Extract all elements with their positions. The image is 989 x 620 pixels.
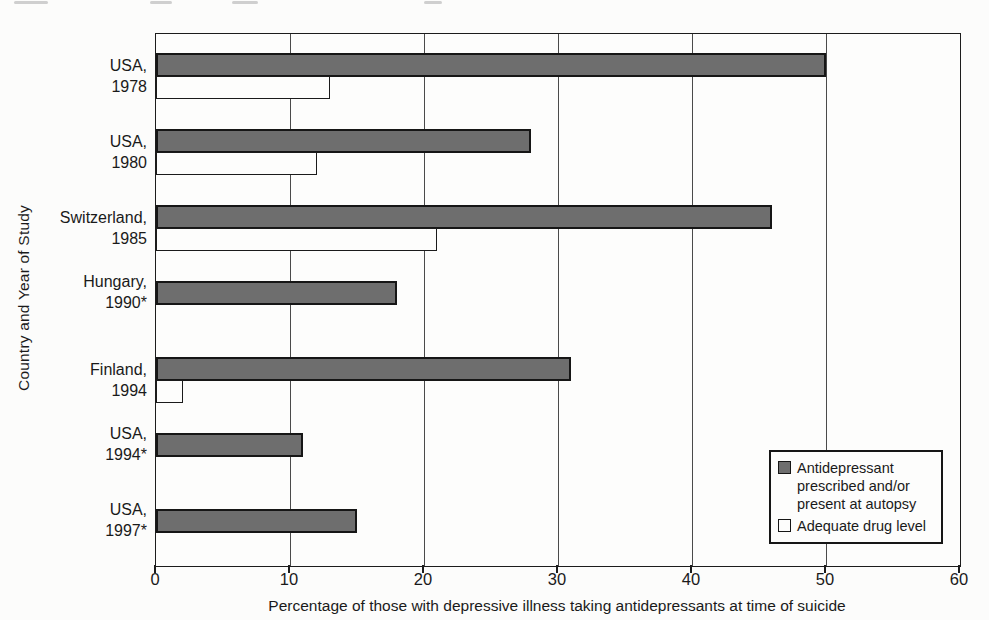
category-label-line1: Switzerland, <box>0 207 147 228</box>
gridline-20 <box>424 34 425 566</box>
scan-artifact-top <box>14 1 48 4</box>
bar-antidepressant-3 <box>156 205 772 229</box>
category-label-line2: 1985 <box>0 228 147 249</box>
legend-label-1: Antidepressant prescribed and/or present… <box>797 459 935 513</box>
x-axis-title: Percentage of those with depressive illn… <box>155 597 959 615</box>
category-label-line2: 1990* <box>0 292 147 313</box>
bar-antidepressant-6 <box>156 433 303 457</box>
category-label-6: USA,1994* <box>0 423 147 465</box>
bar-adequate-level-3 <box>156 228 437 251</box>
x-tick-label-20: 20 <box>401 570 445 589</box>
scan-artifact-top <box>424 1 442 4</box>
legend-item-2: Adequate drug level <box>778 517 935 535</box>
legend-swatch-white <box>778 519 791 532</box>
category-label-3: Switzerland,1985 <box>0 207 147 249</box>
x-tick-label-40: 40 <box>669 570 713 589</box>
bar-antidepressant-2 <box>156 129 531 153</box>
category-label-line2: 1994* <box>0 444 147 465</box>
bar-antidepressant-5 <box>156 357 571 381</box>
category-label-line1: USA, <box>0 55 147 76</box>
bar-antidepressant-7 <box>156 509 357 533</box>
bar-adequate-level-2 <box>156 152 317 175</box>
x-tick-label-30: 30 <box>535 570 579 589</box>
scan-artifact-top <box>232 1 258 4</box>
category-label-line1: USA, <box>0 499 147 520</box>
category-label-line1: Hungary, <box>0 271 147 292</box>
legend: Antidepressant prescribed and/or present… <box>769 450 943 544</box>
bar-adequate-level-1 <box>156 76 330 99</box>
bar-adequate-level-5 <box>156 380 183 403</box>
category-label-line2: 1978 <box>0 76 147 97</box>
category-label-line2: 1997* <box>0 520 147 541</box>
legend-swatch-dark <box>778 461 791 474</box>
x-tick-label-10: 10 <box>267 570 311 589</box>
category-label-4: Hungary,1990* <box>0 271 147 313</box>
category-label-line2: 1994 <box>0 380 147 401</box>
legend-item-1: Antidepressant prescribed and/or present… <box>778 459 935 513</box>
gridline-30 <box>558 34 559 566</box>
category-label-5: Finland,1994 <box>0 359 147 401</box>
x-tick-label-50: 50 <box>803 570 847 589</box>
category-label-line1: Finland, <box>0 359 147 380</box>
gridline-40 <box>692 34 693 566</box>
bar-antidepressant-1 <box>156 53 826 77</box>
x-tick-label-60: 60 <box>937 570 981 589</box>
bar-antidepressant-4 <box>156 281 397 305</box>
category-label-line1: USA, <box>0 423 147 444</box>
category-label-line1: USA, <box>0 131 147 152</box>
x-tick-label-0: 0 <box>133 570 177 589</box>
category-label-2: USA,1980 <box>0 131 147 173</box>
scan-artifact-top <box>150 1 172 4</box>
category-label-7: USA,1997* <box>0 499 147 541</box>
category-label-line2: 1980 <box>0 152 147 173</box>
legend-label-2: Adequate drug level <box>797 517 926 535</box>
bar-chart-figure: Country and Year of Study USA,1978USA,19… <box>0 0 989 620</box>
category-label-1: USA,1978 <box>0 55 147 97</box>
